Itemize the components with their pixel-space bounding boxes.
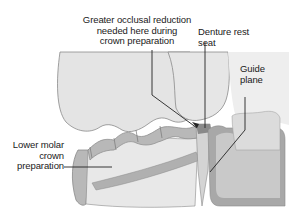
artificial-tooth [232,111,280,150]
guide-plane-wedge [196,124,210,206]
denture-base [208,111,285,206]
label-lower-molar: Lower molar crown preparation [10,140,64,172]
label-rest-seat: Denture rest seat [198,27,249,48]
dental-diagram: Greater occlusal reduction needed here d… [0,0,289,220]
label-occlusal-reduction: Greater occlusal reduction needed here d… [70,15,204,47]
lower-molar [72,125,204,207]
label-guide-plane: Guide plane [240,64,265,85]
upper-premolar [168,52,229,121]
